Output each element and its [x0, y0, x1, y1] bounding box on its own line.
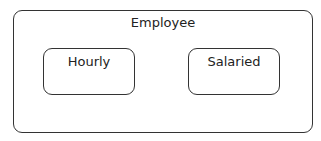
hourly-box: Hourly: [43, 48, 135, 95]
hourly-label: Hourly: [44, 54, 134, 69]
salaried-box: Salaried: [188, 48, 280, 95]
employee-label: Employee: [14, 15, 312, 30]
salaried-label: Salaried: [189, 54, 279, 69]
